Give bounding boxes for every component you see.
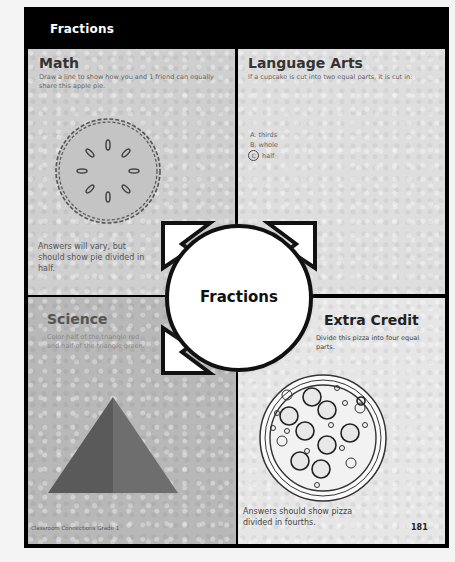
language-arts-heading: Language Arts: [248, 55, 363, 71]
language-arts-question: If a cupcake is cut into two equal parts…: [248, 73, 433, 82]
extra-credit-answer: Answers should show pizza divided in fou…: [243, 506, 383, 528]
science-instruction: Color half of the triangle red and half …: [47, 333, 147, 351]
math-heading: Math: [39, 55, 79, 71]
extra-credit-heading: Extra Credit: [324, 312, 419, 328]
page-title: Fractions: [50, 22, 114, 36]
title-bar: Fractions: [24, 7, 449, 49]
math-answer: Answers will vary, but should show pie d…: [38, 241, 148, 274]
triangle-icon: [48, 397, 178, 497]
apple-pie-icon: [52, 115, 164, 227]
extra-credit-instruction: Divide this pizza into four equal parts.: [316, 334, 426, 352]
answer-options: A. thirds B. whole C half: [250, 131, 278, 162]
option-b[interactable]: B. whole: [250, 141, 278, 151]
footer-source: Classroom Connections Grade 1: [31, 525, 119, 531]
option-a[interactable]: A. thirds: [250, 131, 278, 141]
pizza-icon: [257, 373, 389, 503]
circled-letter: C: [248, 150, 259, 161]
option-c-selected[interactable]: C half: [250, 150, 278, 162]
center-title: Fractions: [160, 288, 318, 306]
math-instruction: Draw a line to show how you and 1 friend…: [39, 73, 229, 91]
page-number: 181: [411, 523, 428, 532]
science-heading: Science: [47, 311, 107, 327]
